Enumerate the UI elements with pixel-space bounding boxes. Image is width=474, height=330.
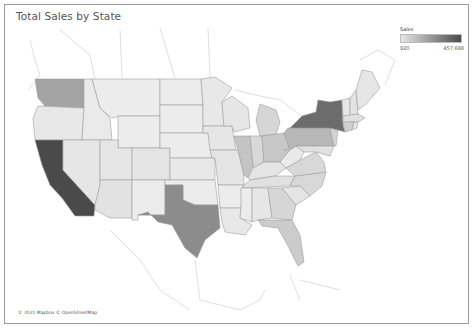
state-new-york[interactable] (290, 100, 345, 132)
state-arizona[interactable] (95, 180, 132, 218)
state-vermont[interactable] (342, 98, 350, 116)
state-maine[interactable] (356, 70, 380, 110)
legend-min-label: 920 (400, 45, 410, 51)
legend-max-label: 457,688 (443, 45, 464, 51)
state-connecticut[interactable] (343, 122, 354, 132)
state-colorado[interactable] (132, 148, 170, 180)
sales-legend: Sales 920 457,688 (400, 26, 464, 51)
us-sales-map[interactable] (5, 5, 468, 323)
state-florida[interactable] (258, 220, 304, 266)
state-mississippi[interactable] (240, 188, 252, 222)
legend-color-ramp (400, 34, 462, 43)
legend-labels: 920 457,688 (400, 45, 464, 51)
map-title: Total Sales by State (16, 10, 121, 22)
state-north-dakota[interactable] (160, 79, 203, 105)
state-south-dakota[interactable] (160, 105, 203, 133)
state-wyoming[interactable] (118, 116, 160, 148)
state-arkansas[interactable] (218, 185, 243, 208)
map-attribution: © 2021 Mapbox © OpenStreetMap (18, 310, 97, 315)
state-washington[interactable] (35, 79, 84, 108)
legend-title: Sales (400, 26, 464, 32)
state-oregon[interactable] (33, 106, 84, 140)
state-kansas[interactable] (170, 158, 215, 180)
mexico-coastline (110, 230, 340, 310)
state-michigan[interactable] (256, 104, 280, 136)
